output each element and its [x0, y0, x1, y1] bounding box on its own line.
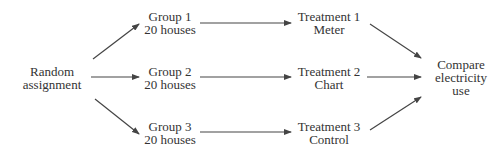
compare-electricity-node: Compare electricity use [428, 58, 494, 97]
compare-line3: use [428, 84, 494, 97]
arrow-treatment3-to-compare [370, 97, 421, 130]
group-2-node: Group 2 20 houses [140, 65, 200, 91]
arrow-treatment1-to-compare [370, 24, 421, 58]
group-1-size: 20 houses [140, 23, 200, 36]
treatment-2-name: Chart [292, 78, 366, 91]
treatment-3-name: Control [292, 133, 366, 146]
group-3-size: 20 houses [140, 133, 200, 146]
treatment-3-node: Treatment 3 Control [292, 120, 366, 146]
group-2-size: 20 houses [140, 78, 200, 91]
arrow-random-to-group1 [93, 24, 139, 59]
group-3-node: Group 3 20 houses [140, 120, 200, 146]
random-assignment-line2: assignment [18, 78, 86, 91]
treatment-2-node: Treatment 2 Chart [292, 65, 366, 91]
random-assignment-node: Random assignment [18, 65, 86, 91]
group-1-node: Group 1 20 houses [140, 10, 200, 36]
treatment-1-name: Meter [292, 23, 366, 36]
treatment-1-node: Treatment 1 Meter [292, 10, 366, 36]
arrow-random-to-group3 [95, 99, 139, 134]
